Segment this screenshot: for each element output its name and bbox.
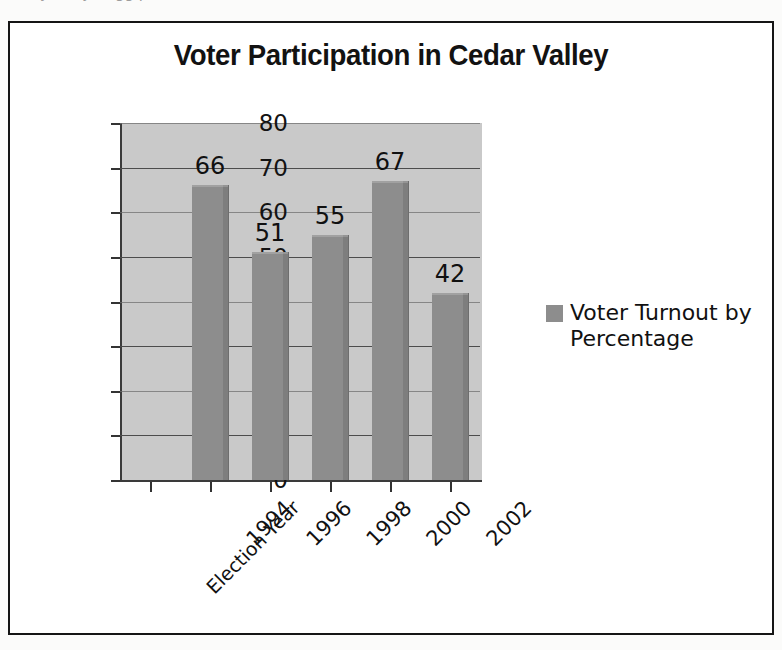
y-tick-label-80: 80 bbox=[228, 110, 288, 136]
bar-1994[interactable] bbox=[192, 185, 229, 480]
x-tick-mark-1994 bbox=[210, 482, 212, 492]
x-tick-mark-1996 bbox=[270, 482, 272, 492]
x-tick-mark-Election Year bbox=[150, 482, 152, 492]
y-tick-mark-20 bbox=[111, 391, 120, 393]
bar-1996[interactable] bbox=[252, 252, 289, 480]
x-tick-mark-2000 bbox=[390, 482, 392, 492]
y-tick-mark-10 bbox=[111, 435, 120, 437]
y-tick-mark-30 bbox=[111, 346, 120, 348]
scan-top-cut-text: y . . . y . . gg p bbox=[40, 0, 460, 2]
gridline-20 bbox=[120, 391, 480, 392]
data-label-1998: 55 bbox=[300, 202, 360, 230]
gridline-50 bbox=[120, 257, 480, 258]
x-tick-mark-2002 bbox=[450, 482, 452, 492]
chart-legend: Voter Turnout by Percentage bbox=[546, 300, 756, 352]
x-axis-label-2002: 2002 bbox=[482, 496, 537, 551]
data-label-1996: 51 bbox=[240, 219, 300, 247]
y-tick-mark-60 bbox=[111, 212, 120, 214]
gridline-40 bbox=[120, 302, 480, 303]
chart-title: Voter Participation in Cedar Valley bbox=[40, 38, 741, 72]
bar-2000[interactable] bbox=[372, 181, 409, 480]
data-label-2002: 42 bbox=[420, 260, 480, 288]
x-tick-mark-1998 bbox=[330, 482, 332, 492]
bar-top-highlight bbox=[372, 181, 408, 183]
x-axis-label-1996: 1996 bbox=[302, 496, 357, 551]
legend-label: Voter Turnout by Percentage bbox=[570, 300, 756, 352]
bar-2002[interactable] bbox=[432, 293, 469, 480]
x-axis-label-1998: 1998 bbox=[362, 496, 417, 551]
gridline-80 bbox=[120, 123, 480, 124]
data-label-2000: 67 bbox=[360, 148, 420, 176]
bar-1998[interactable] bbox=[312, 235, 349, 480]
bar-top-highlight bbox=[432, 293, 468, 295]
legend-color-swatch bbox=[546, 305, 563, 322]
gridline-70 bbox=[120, 168, 480, 169]
chart-frame: Voter Participation in Cedar Valley 8070… bbox=[8, 21, 774, 635]
bar-top-highlight bbox=[312, 235, 348, 237]
gridline-10 bbox=[120, 435, 480, 436]
y-tick-mark-80 bbox=[111, 123, 120, 125]
y-tick-mark-70 bbox=[111, 168, 120, 170]
data-label-1994: 66 bbox=[180, 152, 240, 180]
bar-top-highlight bbox=[252, 252, 288, 254]
y-tick-mark-50 bbox=[111, 257, 120, 259]
y-tick-mark-40 bbox=[111, 302, 120, 304]
gridline-30 bbox=[120, 346, 480, 347]
bar-top-highlight bbox=[192, 185, 228, 187]
x-axis-label-2000: 2000 bbox=[422, 496, 477, 551]
y-tick-mark-0 bbox=[111, 480, 120, 482]
